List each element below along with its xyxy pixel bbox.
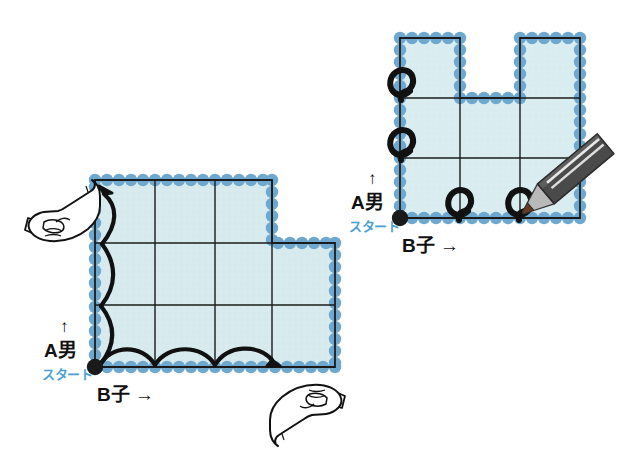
left-horizontal-axis-label: B子 → [97,385,154,404]
figure-canvas: ↑ A男 スタート B子 → ↑ A男 スタート B子 → [0,0,629,474]
right-vertical-axis-arrow: ↑ [368,170,377,187]
left-start-label: スタート [42,368,92,381]
left-vertical-axis-arrow: ↑ [60,318,69,335]
left-vertical-axis-label: A男 [44,341,77,360]
right-horizontal-axis-label: B子 → [402,236,459,255]
right-start-label: スタート [349,220,399,233]
right-vertical-axis-label: A男 [351,193,384,212]
right-panel [0,0,629,474]
